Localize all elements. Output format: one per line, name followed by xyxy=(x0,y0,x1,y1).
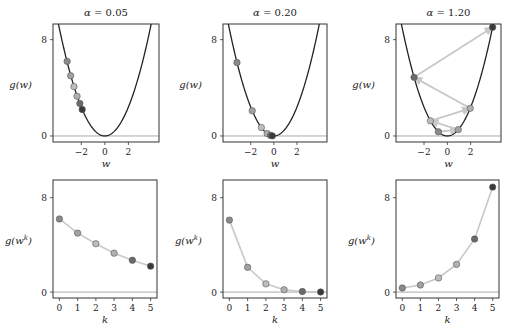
y-axis-label: g(w) xyxy=(352,79,375,90)
x-tick-label: 0 xyxy=(444,147,450,157)
x-axis-label: k xyxy=(444,314,450,325)
x-tick-label: 5 xyxy=(490,303,496,313)
x-tick-label: 2 xyxy=(468,147,474,157)
plot-frame xyxy=(53,24,159,142)
x-tick-label: 1 xyxy=(75,303,81,313)
x-tick-label: 0 xyxy=(102,147,108,157)
x-tick-label: 3 xyxy=(111,303,117,313)
plot-frame xyxy=(223,180,327,298)
cost-point xyxy=(417,282,423,288)
step-point xyxy=(427,118,433,124)
cost-point xyxy=(281,287,287,293)
cost-function-curve xyxy=(223,0,327,136)
x-tick-label: −2 xyxy=(417,147,430,157)
x-tick-label: −2 xyxy=(75,147,88,157)
x-tick-label: −2 xyxy=(244,147,257,157)
y-axis-label: g(wk) xyxy=(348,234,375,246)
cost-point xyxy=(111,250,117,256)
y-tick-label: 0 xyxy=(211,131,217,141)
x-tick-label: 2 xyxy=(294,147,300,157)
figure: 08−202wg(w)α = 0.0508−202wg(w)α = 0.2008… xyxy=(0,0,511,335)
cost-point xyxy=(244,264,250,270)
x-axis-label: w xyxy=(271,158,280,169)
plot-frame xyxy=(53,180,157,298)
plot-frame xyxy=(396,24,501,142)
step-point xyxy=(467,105,473,111)
x-tick-label: 0 xyxy=(57,303,63,313)
cost-point xyxy=(435,275,441,281)
x-tick-label: 0 xyxy=(227,303,233,313)
step-point xyxy=(411,74,417,80)
panel-top-right: 08−202wg(w)α = 1.20 xyxy=(352,0,501,169)
step-point xyxy=(67,73,73,79)
panel-title: α = 0.05 xyxy=(84,7,128,18)
step-point xyxy=(435,129,441,135)
y-axis-label: g(wk) xyxy=(175,234,202,246)
x-axis-label: w xyxy=(102,158,111,169)
y-axis-label: g(w) xyxy=(9,79,32,90)
cost-point xyxy=(299,288,305,294)
y-tick-label: 0 xyxy=(211,288,217,298)
x-tick-label: 5 xyxy=(318,303,324,313)
y-tick-label: 8 xyxy=(384,193,390,203)
x-tick-label: 3 xyxy=(454,303,460,313)
x-tick-label: 0 xyxy=(271,147,277,157)
step-point xyxy=(77,100,83,106)
step-point xyxy=(64,58,70,64)
step-arrow xyxy=(430,108,470,121)
x-tick-label: 3 xyxy=(281,303,287,313)
x-tick-label: 4 xyxy=(300,303,306,313)
x-tick-label: 1 xyxy=(418,303,424,313)
panel-bottom-middle: 08012345kg(wk) xyxy=(175,180,327,325)
cost-point xyxy=(74,230,80,236)
x-tick-label: 2 xyxy=(436,303,442,313)
cost-point xyxy=(399,285,405,291)
cost-function-curve xyxy=(53,0,159,136)
cost-history-line xyxy=(59,219,150,266)
panel-bottom-left: 08012345kg(wk) xyxy=(5,180,157,325)
x-tick-label: 0 xyxy=(399,303,405,313)
cost-point xyxy=(317,289,323,295)
x-tick-label: 4 xyxy=(472,303,478,313)
y-tick-label: 8 xyxy=(384,35,390,45)
cost-point xyxy=(263,281,269,287)
x-axis-label: k xyxy=(102,314,108,325)
panel-bottom-right: 08012345kg(wk) xyxy=(348,180,499,325)
step-point xyxy=(249,107,255,113)
step-point xyxy=(234,59,240,65)
y-axis-label: g(wk) xyxy=(5,234,32,246)
y-tick-label: 8 xyxy=(41,193,47,203)
y-tick-label: 0 xyxy=(41,288,47,298)
y-tick-label: 8 xyxy=(41,35,47,45)
step-point xyxy=(74,93,80,99)
x-tick-label: 2 xyxy=(263,303,269,313)
x-axis-label: w xyxy=(444,158,453,169)
cost-point xyxy=(489,184,495,190)
panel-title: α = 0.20 xyxy=(253,7,297,18)
step-point xyxy=(71,83,77,89)
plot-frame xyxy=(396,180,499,298)
step-point xyxy=(258,124,264,130)
cost-history-line xyxy=(229,220,320,292)
x-tick-label: 2 xyxy=(126,147,132,157)
panel-title: α = 1.20 xyxy=(427,7,471,18)
cost-point xyxy=(56,216,62,222)
y-tick-label: 8 xyxy=(211,35,217,45)
x-axis-label: k xyxy=(272,314,278,325)
step-point xyxy=(269,133,275,139)
panel-top-left: 08−202wg(w)α = 0.05 xyxy=(9,0,159,169)
cost-point xyxy=(93,241,99,247)
x-tick-label: 1 xyxy=(245,303,251,313)
y-axis-label: g(w) xyxy=(179,79,202,90)
step-point xyxy=(489,24,495,30)
cost-point xyxy=(471,236,477,242)
step-point xyxy=(79,106,85,112)
x-tick-label: 2 xyxy=(93,303,99,313)
cost-point xyxy=(129,257,135,263)
cost-history-line xyxy=(402,187,492,288)
y-tick-label: 0 xyxy=(384,131,390,141)
y-tick-label: 8 xyxy=(211,193,217,203)
y-tick-label: 0 xyxy=(384,288,390,298)
cost-point xyxy=(147,263,153,269)
plot-frame xyxy=(223,24,327,142)
